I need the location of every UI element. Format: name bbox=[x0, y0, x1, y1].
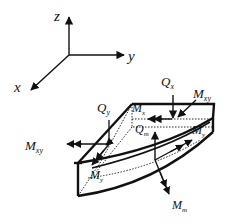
mxy-top-arrow bbox=[178, 100, 196, 117]
mm-arrow-2 bbox=[160, 172, 166, 187]
label-mxy-top: Mxy bbox=[192, 86, 211, 103]
plate-element-diagram: z y x bbox=[0, 0, 229, 224]
x-axis-label: x bbox=[13, 79, 21, 95]
z-axis-label: z bbox=[53, 8, 60, 24]
my-right-arrow-2 bbox=[170, 145, 183, 152]
label-qy: Qy bbox=[97, 100, 110, 117]
label-my: My bbox=[89, 168, 104, 184]
hidden-line-3 bbox=[96, 127, 132, 172]
coordinate-axes: z y x bbox=[13, 8, 135, 95]
label-mm: Mm bbox=[171, 198, 187, 214]
x-axis bbox=[31, 55, 69, 90]
y-axis-label: y bbox=[126, 48, 135, 64]
label-mxy-left: Mxy bbox=[24, 138, 43, 155]
label-qm: Qm bbox=[135, 122, 149, 138]
plate-element bbox=[74, 104, 214, 196]
label-qx: Qx bbox=[161, 74, 174, 91]
